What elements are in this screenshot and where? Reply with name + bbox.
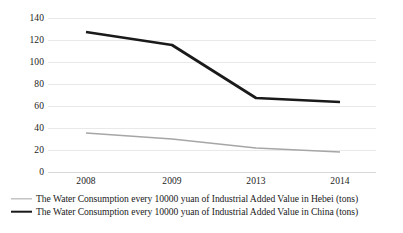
series-line-china [86, 32, 340, 102]
x-tick-2013: 2013 [226, 176, 286, 187]
legend-label-hebei: The Water Consumption every 10000 yuan o… [36, 193, 358, 205]
y-axis-tick-labels: 140 120 100 80 60 40 20 0 [0, 0, 44, 190]
line-chart: 140 120 100 80 60 40 20 0 2008 2009 2013… [0, 0, 403, 190]
legend-item-hebei[interactable]: The Water Consumption every 10000 yuan o… [11, 192, 403, 205]
y-tick-140: 140 [2, 13, 44, 23]
legend-item-china[interactable]: The Water Consumption every 10000 yuan o… [11, 205, 403, 218]
series-line-hebei [86, 133, 340, 152]
y-tick-100: 100 [2, 57, 44, 67]
y-tick-40: 40 [2, 123, 44, 133]
x-tick-2014: 2014 [310, 176, 370, 187]
y-tick-80: 80 [2, 79, 44, 89]
y-tick-120: 120 [2, 35, 44, 45]
y-tick-60: 60 [2, 101, 44, 111]
chart-legend: The Water Consumption every 10000 yuan o… [0, 192, 403, 233]
legend-line-swatch-hebei [11, 193, 32, 204]
chart-plot-svg [0, 0, 403, 190]
x-tick-2008: 2008 [56, 176, 116, 187]
chart-screenshot: 140 120 100 80 60 40 20 0 2008 2009 2013… [0, 0, 403, 233]
gridlines [48, 18, 376, 172]
x-tick-2009: 2009 [142, 176, 202, 187]
y-tick-20: 20 [2, 145, 44, 155]
y-tick-0: 0 [2, 167, 44, 177]
legend-label-china: The Water Consumption every 10000 yuan o… [36, 206, 358, 218]
legend-line-swatch-china [11, 206, 32, 217]
